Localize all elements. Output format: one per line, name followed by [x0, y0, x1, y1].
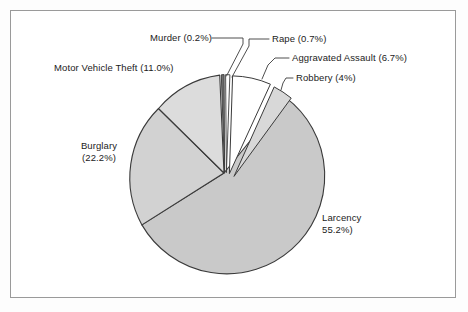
pie-label-burglary: Burglary (22.2%) — [56, 140, 142, 163]
leader-line-aggravated-assault — [262, 58, 289, 79]
pie-label-burglary-line2: (22.2%) — [56, 152, 142, 164]
leader-line-murder — [212, 38, 243, 76]
leader-line-rape — [232, 39, 269, 77]
pie-label-murder: Murder (0.2%) — [64, 32, 212, 44]
pie-label-larceny-line2: 55.2%) — [322, 224, 361, 236]
pie-label-rape: Rape (0.7%) — [272, 33, 326, 45]
pie-label-aggravated-assault: Aggravated Assault (6.7%) — [292, 52, 407, 64]
pie-label-burglary-line1: Burglary — [56, 140, 142, 152]
leader-line-robbery — [281, 78, 293, 90]
pie-label-robbery: Robbery (4%) — [296, 72, 356, 84]
pie-label-larceny: Larcency 55.2%) — [322, 212, 361, 235]
pie-slice-rape[interactable] — [226, 75, 230, 173]
pie-label-larceny-line1: Larcency — [322, 212, 361, 224]
pie-label-motor-vehicle-theft: Motor Vehicle Theft (11.0%) — [54, 62, 174, 74]
figure-canvas: Murder (0.2%) Rape (0.7%) Aggravated Ass… — [0, 0, 468, 312]
